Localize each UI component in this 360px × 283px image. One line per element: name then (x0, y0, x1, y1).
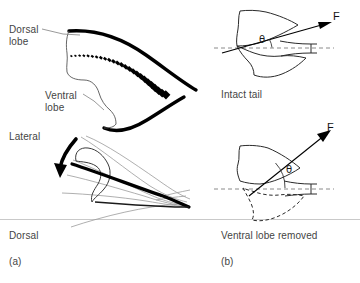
dorsal-lobe-leading-edge (69, 31, 196, 90)
intact-tail-caption: Intact tail (221, 89, 262, 101)
ventral-lobe-label: Ventral lobe (45, 90, 77, 113)
panel-b-lobe-removed (214, 130, 334, 221)
panel-a-caption: (a) (9, 256, 22, 268)
dorsal-view-label: Dorsal (9, 230, 39, 242)
ventral-lobe-leader (83, 94, 104, 110)
intact-ventral-lobe (237, 46, 306, 77)
removed-force-label: F (327, 122, 334, 134)
ventral-lobe-trailing-edge (104, 97, 184, 130)
dorsal-lobe-label: Dorsal lobe (9, 24, 39, 47)
intact-force-arrowhead (318, 22, 332, 29)
lateral-view-label: Lateral (9, 131, 40, 143)
intact-force-line (222, 24, 325, 53)
intact-theta-arc (270, 40, 273, 48)
tail-motion-arrow-head (54, 163, 67, 178)
removed-theta-label: θ (286, 164, 292, 176)
intact-force-label: F (333, 11, 340, 23)
ventral-lobe-removed-caption: Ventral lobe removed (221, 230, 318, 242)
panel-b-intact-tail (214, 10, 334, 77)
panel-b-caption: (b) (221, 256, 234, 268)
removed-theta-arc (276, 163, 286, 188)
panel-a-dorsal-view (42, 29, 196, 130)
lateral-fin-blade (72, 164, 189, 207)
panel-a-lateral-view (54, 136, 190, 227)
intact-theta-label: θ (259, 34, 265, 46)
figure-root: Dorsal lobe Ventral lobe Lateral Dorsal … (0, 0, 360, 283)
